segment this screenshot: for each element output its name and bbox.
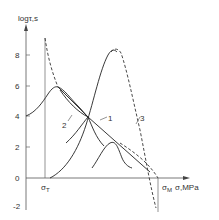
branch-right	[88, 117, 104, 146]
small-hump	[92, 142, 132, 168]
y-ticks: 8 6 4 2 0 -2	[13, 51, 30, 211]
curve-3-left	[45, 38, 58, 87]
stress-logtime-diagram: logτ,s σ,MPa 8 6 4 2 0 -2 σT σM 1 2 3	[0, 0, 219, 220]
sigma-m-label: σM	[162, 183, 172, 193]
x-axis-label: σ,MPa	[175, 183, 199, 192]
tick-label-2: 2	[15, 143, 20, 152]
curve-label-3: 3	[140, 114, 145, 123]
y-axis-label: logτ,s	[18, 14, 38, 23]
tick-label-4: 4	[15, 112, 20, 121]
tick-label-0: 0	[15, 174, 20, 183]
curve-3-right	[111, 49, 156, 208]
x-axis-arrow-icon	[183, 176, 190, 180]
curve-2	[26, 87, 88, 117]
curve-3-lower	[120, 143, 158, 178]
tick-label-6: 6	[15, 82, 20, 91]
tick-label-8: 8	[15, 51, 20, 60]
sigma-t-label: σT	[41, 183, 50, 193]
y-axis-arrow-icon	[24, 24, 28, 31]
tick-label-neg2: -2	[13, 202, 21, 211]
curve-label-1: 1	[108, 114, 113, 123]
curve-label-2: 2	[62, 121, 67, 130]
